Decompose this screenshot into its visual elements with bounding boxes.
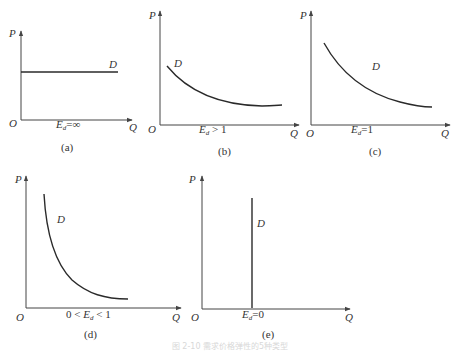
panel-b: P O Q D Ed > 1 (b)	[148, 9, 299, 158]
y-axis-label: P	[148, 9, 156, 21]
elasticity-label: 0 < Ed < 1	[66, 308, 111, 322]
curve-label: D	[108, 58, 117, 70]
panel-c: P O Q D Ed=1 (c)	[299, 9, 450, 158]
elasticity-label: Ed > 1	[198, 123, 226, 137]
x-axis-label: Q	[172, 311, 180, 323]
x-axis-label: Q	[441, 127, 449, 139]
curve-label: D	[256, 217, 265, 229]
panel-caption: (c)	[369, 145, 382, 158]
origin-label: O	[16, 311, 24, 323]
panel-caption: (e)	[262, 328, 275, 341]
curve-label: D	[56, 213, 65, 225]
elasticity-label: Ed=∞	[55, 118, 80, 132]
origin-label: O	[148, 123, 156, 135]
demand-curve	[44, 194, 128, 299]
y-axis-label: P	[299, 9, 307, 21]
demand-curve	[167, 66, 282, 106]
curve-label: D	[371, 60, 380, 72]
figure-caption: 图 2-10 需求价格弹性的5种类型	[172, 341, 288, 351]
demand-curve	[324, 43, 432, 107]
y-axis-label: P	[14, 173, 22, 185]
panel-a: P O Q D Ed=∞ (a)	[8, 27, 137, 154]
panel-d: P O Q D 0 < Ed < 1 (d)	[14, 173, 181, 341]
panel-caption: (b)	[218, 145, 231, 158]
x-axis-label: Q	[345, 311, 353, 323]
elasticity-label: Ed=0	[241, 308, 264, 322]
y-axis-label: P	[188, 173, 196, 185]
x-axis-label: Q	[129, 121, 137, 133]
curve-label: D	[173, 57, 182, 69]
origin-label: O	[9, 117, 17, 129]
panel-caption: (a)	[61, 141, 74, 154]
origin-label: O	[306, 127, 314, 139]
origin-label: O	[191, 311, 199, 323]
panel-caption: (d)	[84, 328, 97, 341]
elasticity-label: Ed=1	[350, 123, 373, 137]
panel-e: P O Q D Ed=0 (e)	[188, 173, 353, 341]
x-axis-label: Q	[290, 127, 298, 139]
y-axis-label: P	[8, 27, 16, 39]
elasticity-figure: P O Q D Ed=∞ (a) P O Q D Ed > 1 (b) P O …	[0, 0, 457, 352]
